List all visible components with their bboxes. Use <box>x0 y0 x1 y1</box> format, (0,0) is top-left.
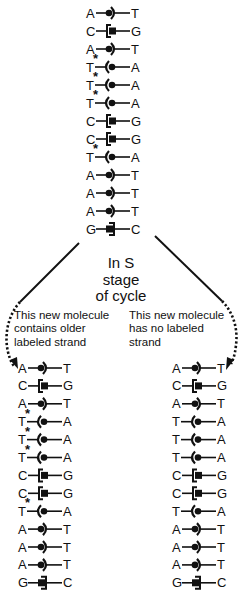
dot-icon <box>38 526 45 533</box>
arc-left-icon <box>192 452 195 464</box>
right-base-letter: T <box>217 361 225 376</box>
right-base-letter: A <box>217 414 226 429</box>
right-base-letter: A <box>217 450 226 465</box>
right-base-letter: A <box>131 78 140 93</box>
dot-icon <box>192 526 199 533</box>
right-base-letter: T <box>217 396 225 411</box>
radioactive-label-asterisk-icon: * <box>93 141 99 156</box>
dot-icon <box>106 46 113 53</box>
base-pair-row: CG <box>172 378 227 393</box>
base-pair-row: GC <box>18 575 72 590</box>
left-base-letter: C <box>172 468 181 483</box>
right-base-letter: T <box>217 522 225 537</box>
right-base-letter: A <box>63 450 72 465</box>
right-base-letter: A <box>63 432 72 447</box>
base-pair-row: AT <box>172 396 225 411</box>
arc-left-icon <box>106 97 109 109</box>
center-label-line-2: stage <box>103 271 140 288</box>
square-icon <box>109 136 116 143</box>
left-base-letter: A <box>172 522 181 537</box>
radioactive-label-asterisk-icon: * <box>25 406 31 421</box>
right-base-letter: A <box>131 60 140 75</box>
dot-icon <box>106 190 113 197</box>
left-note-line-1: This new molecule <box>14 309 109 321</box>
right-base-letter: T <box>63 361 71 376</box>
right-base-letter: A <box>131 96 140 111</box>
base-pair-row: AT <box>18 540 71 555</box>
dot-icon <box>192 562 199 569</box>
dot-icon <box>38 544 45 551</box>
left-base-letter: A <box>86 6 95 21</box>
arc-left-icon <box>106 79 109 91</box>
right-base-letter: T <box>63 522 71 537</box>
right-note-line-2: has no labeled <box>129 322 204 334</box>
radioactive-label-asterisk-icon: * <box>93 51 99 66</box>
left-molecule-note: This new molecule contains older labeled… <box>14 309 109 348</box>
base-pair-row: AT <box>86 168 139 183</box>
right-base-letter: T <box>63 557 71 572</box>
arc-left-icon <box>38 505 41 517</box>
square-icon <box>109 28 116 35</box>
arc-left-icon <box>192 416 195 428</box>
base-pair-row: TA <box>172 450 226 465</box>
base-pair-row: AT <box>172 522 225 537</box>
left-base-letter: C <box>18 378 27 393</box>
right-base-letter: C <box>217 575 226 590</box>
right-base-letter: G <box>217 468 227 483</box>
radioactive-label-asterisk-icon: * <box>25 495 31 510</box>
arc-left-icon <box>192 434 195 446</box>
right-base-letter: G <box>217 486 227 501</box>
dot-icon <box>192 401 199 408</box>
right-base-letter: G <box>63 486 73 501</box>
square-icon <box>41 472 48 479</box>
right-base-letter: T <box>131 186 139 201</box>
radioactive-label-asterisk-icon: * <box>25 442 31 457</box>
square-icon <box>195 472 202 479</box>
right-replication-arrow <box>155 236 236 370</box>
daughter-molecule-labeled: ATCGATTA*TA*TA*CGCGTA*ATATATGC <box>18 361 73 591</box>
base-pair-row: TA <box>172 504 226 519</box>
right-base-letter: A <box>131 150 140 165</box>
base-pair-row: AT <box>18 557 71 572</box>
base-pair-row: CG <box>86 24 141 39</box>
arc-left-icon <box>106 61 109 73</box>
left-base-letter: C <box>18 468 27 483</box>
parent-dna-molecule: ATCGATTA*TA*TA*CGCGTA*ATATATGC <box>86 6 141 237</box>
arc-left-icon <box>38 416 41 428</box>
square-icon <box>38 579 45 586</box>
right-base-letter: T <box>217 540 225 555</box>
radioactive-label-asterisk-icon: * <box>93 69 99 84</box>
base-pair-row: AT <box>86 6 139 21</box>
right-base-letter: G <box>131 114 141 129</box>
base-pair-row: AT <box>172 361 225 376</box>
left-base-letter: A <box>18 540 27 555</box>
base-pair-row: CG <box>86 114 141 129</box>
left-base-letter: T <box>172 432 180 447</box>
right-base-letter: T <box>63 396 71 411</box>
left-base-letter: A <box>18 361 27 376</box>
left-base-letter: A <box>18 557 27 572</box>
dna-replication-diagram: ATCGATTA*TA*TA*CGCGTA*ATATATGC In S stag… <box>0 0 241 592</box>
dot-icon <box>106 10 113 17</box>
square-icon <box>109 118 116 125</box>
left-base-letter: C <box>86 114 95 129</box>
base-pair-row: AT <box>86 204 139 219</box>
base-pair-row: CG <box>172 486 227 501</box>
right-base-letter: G <box>217 378 227 393</box>
right-base-letter: A <box>217 432 226 447</box>
right-base-letter: A <box>217 504 226 519</box>
dot-icon <box>106 172 113 179</box>
radioactive-label-asterisk-icon: * <box>25 424 31 439</box>
base-pair-row: TA <box>172 432 226 447</box>
square-icon <box>41 490 48 497</box>
left-base-letter: A <box>172 540 181 555</box>
center-label-line-3: of cycle <box>96 287 147 304</box>
base-pair-row: AT <box>172 540 225 555</box>
right-note-line-1: This new molecule <box>129 309 224 321</box>
square-icon <box>106 226 113 233</box>
left-base-letter: A <box>86 168 95 183</box>
left-note-line-2: contains older <box>14 322 86 334</box>
center-label-line-1: In S <box>108 254 135 271</box>
daughter-molecule-unlabeled: ATCGATTATATACGCGTAATATATGC <box>172 361 227 591</box>
right-base-letter: T <box>131 6 139 21</box>
